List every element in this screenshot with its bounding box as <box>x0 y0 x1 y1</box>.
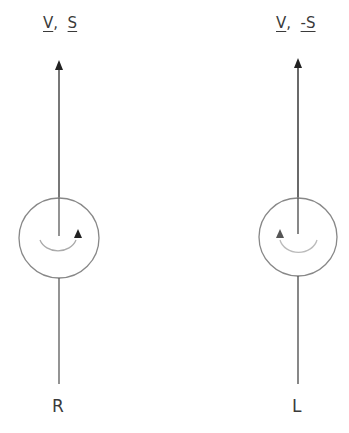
velocity-symbol: V <box>276 14 286 32</box>
arrow-up-icon <box>55 60 63 70</box>
left-handed-diagram <box>259 58 337 384</box>
rotation-arrow-icon <box>74 229 82 238</box>
rotation-arc-counterclockwise-icon <box>280 240 317 252</box>
top-label-left-handed: V, -S <box>276 14 316 32</box>
spin-symbol: -S <box>301 14 316 32</box>
arrow-up-icon <box>294 58 302 68</box>
right-handed-diagram <box>19 60 99 384</box>
rotation-arrow-icon <box>276 229 284 238</box>
handedness-label-right: R <box>52 396 64 416</box>
handedness-label-left: L <box>292 396 301 416</box>
velocity-symbol: V <box>43 14 53 32</box>
helicity-diagram-canvas <box>0 0 349 433</box>
top-label-right-handed: V, S <box>43 14 77 32</box>
rotation-arc-clockwise-icon <box>40 240 76 251</box>
spin-symbol: S <box>68 14 78 32</box>
